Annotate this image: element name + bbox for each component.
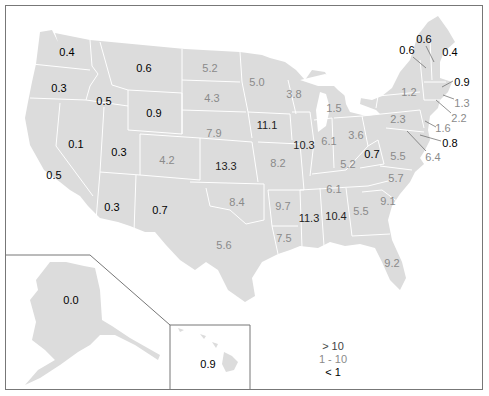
state-label-tx: 5.6 xyxy=(216,240,231,251)
legend-item-low: < 1 xyxy=(313,366,353,379)
state-label-la: 7.5 xyxy=(276,233,291,244)
state-label-fl: 9.2 xyxy=(384,258,399,269)
state-label-sd: 4.3 xyxy=(204,93,219,104)
state-label-va: 5.5 xyxy=(390,151,405,162)
state-label-ri: 1.3 xyxy=(454,98,469,109)
state-label-vt: 0.6 xyxy=(399,45,414,56)
state-label-ne: 7.9 xyxy=(206,128,221,139)
state-label-ma: 0.9 xyxy=(454,77,469,88)
state-label-hi: 0.9 xyxy=(200,359,215,370)
state-label-co: 4.2 xyxy=(159,155,174,166)
state-label-ga: 5.5 xyxy=(353,206,368,217)
alaska-shape xyxy=(25,262,160,385)
legend-item-high: > 10 xyxy=(313,340,353,353)
state-label-ca: 0.5 xyxy=(46,170,61,181)
state-label-nv: 0.1 xyxy=(68,139,83,150)
state-label-id: 0.5 xyxy=(96,96,111,107)
state-label-ny: 1.2 xyxy=(401,87,416,98)
state-label-mt: 0.6 xyxy=(136,63,151,74)
state-label-al: 10.4 xyxy=(325,211,346,222)
state-label-mo: 8.2 xyxy=(270,158,285,169)
state-label-ia: 11.1 xyxy=(257,120,278,131)
state-label-de: 0.8 xyxy=(442,138,457,149)
leader-line xyxy=(443,95,454,99)
state-label-wv: 0.7 xyxy=(364,149,379,160)
state-label-wa: 0.4 xyxy=(59,47,74,58)
state-label-ar: 9.7 xyxy=(275,201,290,212)
legend-item-mid: 1 - 10 xyxy=(313,353,353,366)
state-label-or: 0.3 xyxy=(51,83,66,94)
state-label-il: 10.3 xyxy=(293,140,314,151)
state-label-nh: 0.6 xyxy=(416,34,431,45)
state-label-tn: 6.1 xyxy=(326,184,341,195)
state-label-pa: 2.3 xyxy=(390,114,405,125)
state-label-ok: 8.4 xyxy=(229,197,244,208)
legend: > 10 1 - 10 < 1 xyxy=(313,340,353,379)
state-label-me: 0.4 xyxy=(442,47,457,58)
state-label-ut: 0.3 xyxy=(111,147,126,158)
state-label-ky: 5.2 xyxy=(340,159,355,170)
state-label-in: 6.1 xyxy=(321,136,336,147)
state-label-wi: 3.8 xyxy=(286,89,301,100)
state-label-az: 0.3 xyxy=(104,202,119,213)
state-label-mi: 1.5 xyxy=(326,103,341,114)
state-label-ak: 0.0 xyxy=(63,295,78,306)
state-label-sc: 9.1 xyxy=(380,196,395,207)
state-label-ct: 2.2 xyxy=(451,113,466,124)
state-label-nc: 5.7 xyxy=(388,173,403,184)
state-label-mn: 5.0 xyxy=(249,77,264,88)
state-label-oh: 3.6 xyxy=(348,130,363,141)
state-label-wy: 0.9 xyxy=(146,108,161,119)
state-label-ms: 11.3 xyxy=(299,213,320,224)
state-label-nm: 0.7 xyxy=(152,205,167,216)
state-label-nj: 1.6 xyxy=(435,123,450,134)
state-label-nd: 5.2 xyxy=(202,63,217,74)
state-label-ks: 13.3 xyxy=(215,161,236,172)
state-label-md: 6.4 xyxy=(425,152,440,163)
